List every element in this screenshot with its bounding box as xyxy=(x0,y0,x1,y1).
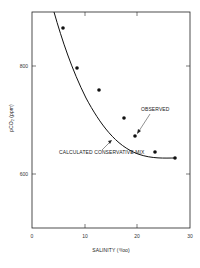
x-tick-30: 30 xyxy=(187,233,193,239)
calculated-curve xyxy=(54,12,175,158)
data-point xyxy=(75,66,79,70)
data-point xyxy=(133,134,137,138)
x-axis-label: SALINITY (⁰/oo) xyxy=(92,247,130,253)
data-point xyxy=(173,156,177,160)
chart: 0 10 20 30 800 600 SALINITY (⁰/oo) pCO₂ … xyxy=(0,0,200,268)
x-tick-10: 10 xyxy=(82,233,88,239)
data-point xyxy=(61,26,65,30)
x-tick-20: 20 xyxy=(134,233,140,239)
y-tick-600: 600 xyxy=(20,171,29,177)
data-point xyxy=(153,150,157,154)
observed-arrow xyxy=(139,114,150,131)
y-axis-label: pCO₂ (ppm) xyxy=(8,104,14,132)
observed-points xyxy=(61,26,177,160)
observed-annotation: OBSERVED xyxy=(141,106,170,112)
data-point xyxy=(122,116,126,120)
plot-frame xyxy=(32,12,190,228)
data-point xyxy=(97,88,101,92)
x-ticks xyxy=(85,12,137,228)
y-tick-800: 800 xyxy=(20,63,29,69)
observed-arrowhead xyxy=(137,129,141,134)
x-tick-0: 0 xyxy=(31,233,34,239)
